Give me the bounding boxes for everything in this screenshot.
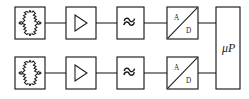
block-diagram: A D [0,0,249,99]
adc-2-analog-label: A [174,64,180,72]
filter-2-box [117,57,144,89]
block-amplifier-1[interactable] [66,7,96,39]
diagram-canvas: A D [0,0,249,99]
block-adc-1[interactable]: A D [167,7,198,39]
adc-1-digital-label: D [186,27,191,35]
block-filter-2[interactable] [117,57,144,89]
block-bridge-1[interactable] [15,7,45,39]
filter-1-box [117,7,144,39]
block-amplifier-2[interactable] [66,57,96,89]
adc-1-analog-label: A [174,14,180,22]
amplifier-2-box [66,57,96,89]
amplifier-1-box [66,7,96,39]
microprocessor-label: μP [221,41,236,55]
block-filter-1[interactable] [117,7,144,39]
block-bridge-2[interactable] [15,57,45,89]
block-adc-2[interactable]: A D [167,57,198,89]
adc-2-digital-label: D [186,77,191,85]
block-microprocessor[interactable]: μP [216,7,240,89]
